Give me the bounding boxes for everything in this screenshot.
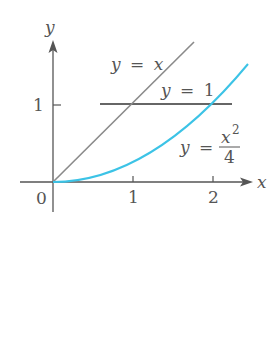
region-diagram: x 1 2 0 y 1 y = 1 y = x y = (0, 0, 270, 348)
label-rhs: x (154, 54, 164, 74)
label-lhs: y (179, 137, 190, 157)
label-lhs: y (110, 54, 121, 74)
origin-label: 0 (36, 188, 47, 208)
y-axis-label: y (44, 17, 55, 37)
svg-text:y = x: y = x (110, 54, 164, 74)
line-y-equals-1: y = 1 (100, 80, 232, 104)
label-eq: = (180, 80, 194, 100)
svg-text:y = 1: y = 1 (160, 80, 215, 100)
x-tick-label-2: 2 (208, 187, 219, 207)
label-eq: = (199, 137, 213, 157)
x-tick-label-1: 1 (128, 187, 139, 207)
label-lhs: y (160, 80, 171, 100)
label-denominator: 4 (224, 147, 235, 167)
line-y-equals-x: y = x (53, 42, 194, 182)
parabola-y-equals-x2-over-4: y = x 2 4 (53, 64, 248, 182)
label-exponent: 2 (232, 123, 240, 137)
x-axis-label: x (257, 172, 267, 192)
label-eq: = (130, 54, 144, 74)
svg-text:y =: y = (179, 137, 213, 157)
label-numerator: x (221, 127, 231, 147)
label-rhs: 1 (204, 80, 215, 100)
y-tick-label-1: 1 (33, 95, 44, 115)
